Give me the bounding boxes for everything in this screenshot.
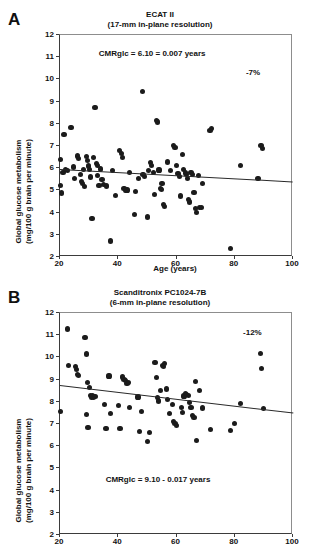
data-point (126, 380, 131, 385)
data-point (197, 388, 202, 393)
data-point (66, 363, 71, 368)
y-tick-label: 7 (40, 141, 54, 150)
data-point (156, 398, 161, 403)
data-point (61, 132, 66, 137)
data-point (199, 205, 204, 210)
data-point (137, 429, 142, 434)
data-point (108, 238, 113, 243)
data-point (92, 394, 97, 399)
panel-a-y-axis-title-line1: Global glucose metabolism (14, 139, 24, 244)
data-point (108, 411, 113, 416)
panel-b-y-axis-title-line2: (mg/100 g brain per minute) (24, 418, 34, 523)
x-tick-label: 100 (280, 259, 304, 268)
data-point (193, 379, 198, 384)
data-point (167, 411, 172, 416)
y-tick-label: 11 (40, 330, 54, 339)
regression-equation-annotation: CMRglc = 6.10 = 0.007 years (99, 49, 206, 58)
data-point (209, 126, 214, 131)
data-point (116, 403, 121, 408)
y-tick-label: 4 (40, 485, 54, 494)
data-point (174, 163, 179, 168)
data-point (259, 366, 264, 371)
data-point (179, 405, 184, 410)
data-point (155, 119, 160, 124)
y-tick-label: 8 (40, 118, 54, 127)
data-point (145, 439, 150, 444)
y-tick-label: 6 (40, 163, 54, 172)
x-tick-mark (117, 534, 118, 537)
data-point (84, 412, 89, 417)
y-tick-mark (56, 56, 59, 57)
data-point (194, 210, 199, 215)
y-tick-mark (56, 78, 59, 79)
data-point (82, 184, 87, 189)
panel-a-title-line2: (17-mm in-plane resolution) (60, 20, 260, 30)
x-tick-label: 60 (164, 537, 188, 546)
percent-change-annotation: -7% (246, 68, 260, 77)
data-point (174, 423, 179, 428)
x-tick-mark (176, 256, 177, 259)
data-point (142, 174, 147, 179)
data-point (165, 159, 170, 164)
data-point (113, 193, 118, 198)
data-point (162, 204, 167, 209)
y-tick-label: 10 (40, 352, 54, 361)
data-point (191, 415, 196, 420)
data-point (162, 361, 167, 366)
panel-b-title: Scanditronix PC1024-7B (6-mm in-plane re… (60, 288, 260, 307)
x-tick-mark (234, 256, 235, 259)
x-tick-label: 40 (105, 537, 129, 546)
data-point (260, 146, 265, 151)
data-point (91, 155, 96, 160)
y-tick-label: 12 (40, 30, 54, 39)
data-point (89, 216, 94, 221)
x-tick-mark (59, 256, 60, 259)
data-point (168, 168, 173, 173)
x-tick-label: 80 (222, 259, 246, 268)
x-tick-mark (234, 534, 235, 537)
y-tick-mark (56, 234, 59, 235)
y-tick-mark (56, 34, 59, 35)
data-point (180, 152, 185, 157)
data-point (124, 187, 129, 192)
panel-b-title-line1: Scanditronix PC1024-7B (60, 288, 260, 298)
data-point (158, 388, 163, 393)
data-point (200, 405, 205, 410)
regression-equation-annotation: CMRglc = 9.10 - 0.017 years (106, 475, 211, 484)
data-point (178, 193, 183, 198)
data-point (133, 189, 138, 194)
data-point (82, 335, 87, 340)
percent-change-annotation: -12% (243, 328, 262, 337)
data-point (170, 402, 175, 407)
panel-b-letter: B (8, 288, 20, 308)
data-point (140, 89, 145, 94)
data-point (172, 145, 177, 150)
data-point (103, 426, 108, 431)
y-tick-mark (56, 123, 59, 124)
y-tick-label: 10 (40, 74, 54, 83)
y-tick-mark (56, 379, 59, 380)
panel-a-y-axis-title: Global glucose metabolism (mg/100 g brai… (14, 139, 34, 244)
y-tick-mark (56, 212, 59, 213)
y-tick-label: 5 (40, 185, 54, 194)
panel-b-title-line2: (6-mm in-plane resolution) (60, 298, 260, 308)
y-tick-label: 3 (40, 229, 54, 238)
data-point (68, 125, 73, 130)
data-point (232, 421, 237, 426)
panel-a-x-axis-title: Age (years) (153, 264, 197, 273)
y-tick-mark (56, 445, 59, 446)
panel-b-plot-area (59, 312, 292, 534)
data-point (191, 190, 196, 195)
data-point (152, 360, 157, 365)
data-point (76, 373, 81, 378)
data-point (132, 212, 137, 217)
data-point (88, 174, 93, 179)
data-point (194, 438, 199, 443)
data-point (258, 351, 263, 356)
data-point (188, 405, 193, 410)
y-tick-label: 6 (40, 441, 54, 450)
data-point (84, 351, 89, 356)
data-point (58, 157, 63, 162)
data-point (117, 426, 122, 431)
panel-a-y-axis-title-line2: (mg/100 g brain per minute) (24, 139, 34, 244)
